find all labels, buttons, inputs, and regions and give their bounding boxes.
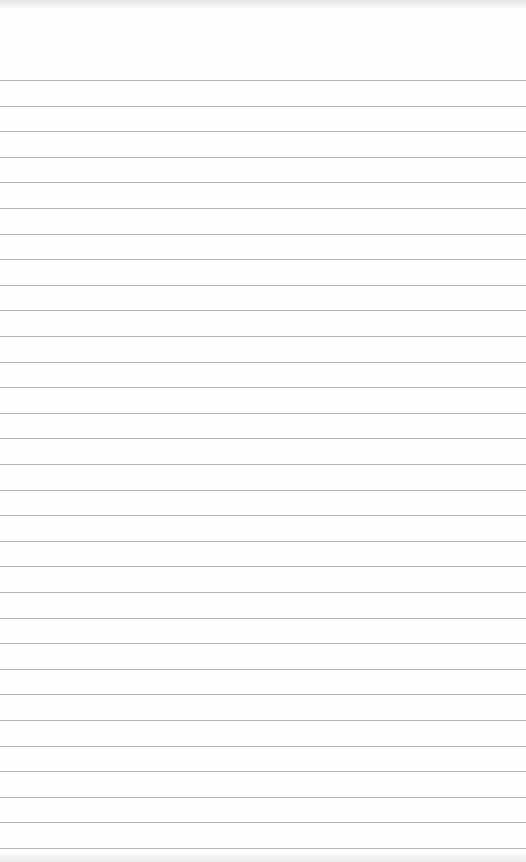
ruled-line bbox=[0, 643, 526, 644]
ruled-line bbox=[0, 208, 526, 209]
ruled-line bbox=[0, 592, 526, 593]
ruled-line bbox=[0, 387, 526, 388]
ruled-line bbox=[0, 464, 526, 465]
ruled-line bbox=[0, 131, 526, 132]
ruled-line bbox=[0, 797, 526, 798]
ruled-line bbox=[0, 438, 526, 439]
ruled-line bbox=[0, 746, 526, 747]
ruled-line bbox=[0, 182, 526, 183]
ruled-line bbox=[0, 285, 526, 286]
ruled-line bbox=[0, 80, 526, 81]
ruled-line bbox=[0, 848, 526, 849]
ruled-line bbox=[0, 541, 526, 542]
ruled-line bbox=[0, 362, 526, 363]
ruled-line bbox=[0, 720, 526, 721]
ruled-line bbox=[0, 618, 526, 619]
ruled-line bbox=[0, 822, 526, 823]
ruled-line bbox=[0, 234, 526, 235]
ruled-line bbox=[0, 515, 526, 516]
ruled-line bbox=[0, 566, 526, 567]
ruled-line bbox=[0, 669, 526, 670]
ruled-line bbox=[0, 694, 526, 695]
ruled-line bbox=[0, 157, 526, 158]
paper-bottom-edge bbox=[0, 854, 526, 862]
paper-top-edge bbox=[0, 0, 526, 8]
ruled-line bbox=[0, 336, 526, 337]
ruled-line bbox=[0, 771, 526, 772]
ruled-line bbox=[0, 310, 526, 311]
ruled-line bbox=[0, 413, 526, 414]
ruled-line bbox=[0, 106, 526, 107]
lined-paper bbox=[0, 0, 526, 862]
ruled-line bbox=[0, 490, 526, 491]
ruled-line bbox=[0, 259, 526, 260]
